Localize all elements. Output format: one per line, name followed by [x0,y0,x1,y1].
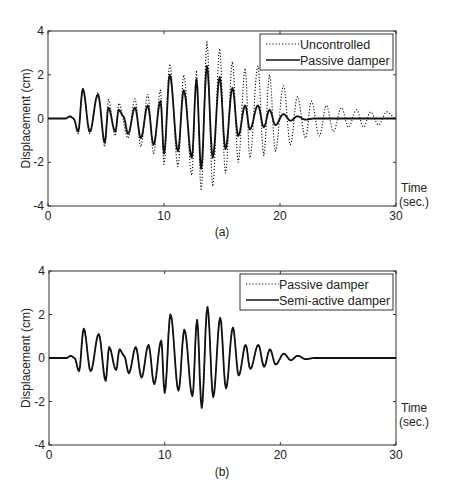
legend-label-passive-a: Passive damper [300,54,390,68]
panel-label-b: (b) [215,465,230,479]
y-tick-label: 2 [38,308,45,322]
legend-a: Uncontrolled Passive damper [260,34,393,70]
y-tick-label: -2 [33,155,44,169]
x-tick-label: 10 [157,209,171,223]
x-axis-label-b-line2: (sec.) [399,415,429,429]
y-tick-label: 0 [37,112,44,126]
x-axis-label-a-line2: (sec.) [399,195,429,209]
panel-b-chart: 0102030-4-2024 Displacement (cm) Time (s… [19,264,429,479]
y-axis-label-a: Displacement (cm) [19,68,33,168]
y-tick-label: -2 [34,395,45,409]
x-axis-label-b-line1: Time [401,401,428,415]
legend-label-uncontrolled: Uncontrolled [300,38,370,52]
x-tick-label: 20 [273,209,287,223]
y-axis-label-b: Displacement (cm) [19,308,33,408]
panel-a-chart: 0102030-4-2024 Displacement (cm) Time (s… [19,24,429,239]
x-axis-label-a-line1: Time [401,181,428,195]
x-tick-label: 0 [45,209,52,223]
figure: 0102030-4-2024 Displacement (cm) Time (s… [0,0,456,497]
x-tick-label: 0 [46,448,53,462]
y-tick-label: 0 [38,351,45,365]
panel-label-a: (a) [215,225,230,239]
y-tick-label: 4 [37,24,44,38]
x-tick-label: 10 [158,448,172,462]
x-tick-label: 30 [389,448,403,462]
legend-label-passive-b: Passive damper [279,278,369,292]
y-tick-label: -4 [34,438,45,452]
y-tick-label: 2 [37,68,44,82]
y-tick-label: 4 [38,264,45,278]
legend-b: Passive damper Semi-active damper [240,274,393,310]
x-tick-label: 30 [389,209,403,223]
legend-label-semiactive: Semi-active damper [279,294,390,308]
y-tick-label: -4 [33,199,44,213]
x-tick-label: 20 [274,448,288,462]
